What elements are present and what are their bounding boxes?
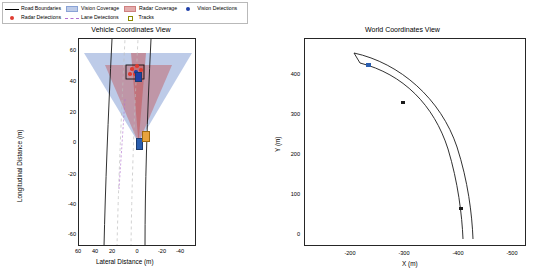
- legend-label: Tracks: [139, 13, 154, 22]
- legend-label: Road Boundaries: [21, 4, 61, 13]
- radar-detections-icon: [5, 14, 19, 22]
- vehicle-marker: [401, 101, 405, 104]
- radar-detection-point: [139, 68, 143, 72]
- vehicle-view-plot-area: [78, 38, 196, 246]
- road-boundaries-icon: [5, 5, 19, 13]
- world-road-graphics: [305, 39, 526, 246]
- legend-label: Vision Coverage: [81, 4, 119, 13]
- y-axis-label: Y (m): [274, 136, 281, 152]
- world-view-plot-area: [304, 38, 526, 246]
- legend-label: Vision Detections: [197, 4, 237, 13]
- y-tick: 0: [282, 231, 300, 237]
- legend-label: Lane Detections: [81, 13, 119, 22]
- y-tick: 100: [282, 191, 300, 197]
- legend-label: Radar Detections: [21, 13, 61, 22]
- y-tick: 300: [282, 111, 300, 117]
- y-axis-label: Longitudinal Distance (m): [16, 130, 23, 202]
- x-axis-label: X (m): [402, 260, 418, 267]
- y-tick: 0: [60, 139, 76, 145]
- y-tick: -60: [60, 231, 76, 237]
- world-coordinates-panel: World Coordinates View -200 -300 -400 -5…: [268, 14, 537, 280]
- x-tick: -20: [158, 248, 166, 254]
- vehicle-view-title: Vehicle Coordinates View: [0, 26, 262, 33]
- x-tick: 20: [109, 248, 115, 254]
- y-tick: 20: [60, 109, 76, 115]
- target-vehicle: [142, 131, 150, 142]
- x-tick: -300: [398, 250, 409, 256]
- y-tick: 400: [282, 71, 300, 77]
- radar-detection-point: [130, 67, 134, 71]
- legend-item-tracks: Tracks: [123, 13, 154, 22]
- vehicle-marker: [459, 207, 463, 210]
- x-axis-label: Lateral Distance (m): [96, 258, 154, 265]
- legend-item-lane-detections: Lane Detections: [65, 13, 119, 22]
- vision-coverage-icon: [65, 5, 79, 13]
- y-tick: 200: [282, 151, 300, 157]
- x-tick: -40: [176, 248, 184, 254]
- lane-detections-icon: [65, 14, 79, 22]
- x-tick: 40: [92, 248, 98, 254]
- legend-item-vision-detections: Vision Detections: [181, 4, 237, 13]
- y-tick: 60: [60, 47, 76, 53]
- x-tick: -200: [344, 250, 355, 256]
- legend-item-road-boundaries: Road Boundaries: [5, 4, 61, 13]
- radar-coverage-icon: [123, 5, 137, 13]
- y-tick: -20: [60, 171, 76, 177]
- x-tick: 60: [75, 248, 81, 254]
- x-tick: 0: [135, 248, 138, 254]
- road-boundary-inner: [360, 63, 463, 239]
- tracks-icon: [123, 14, 137, 22]
- y-tick: -40: [60, 201, 76, 207]
- legend-label: Radar Coverage: [139, 4, 177, 13]
- radar-detection-point: [128, 72, 132, 76]
- legend: Road Boundaries Vision Coverage Radar Co…: [2, 2, 248, 24]
- vision-detections-icon: [181, 5, 195, 13]
- ego-vehicle-marker: [366, 63, 371, 67]
- legend-item-vision-coverage: Vision Coverage: [65, 4, 119, 13]
- radar-detection-point: [135, 64, 139, 68]
- legend-item-radar-detections: Radar Detections: [5, 13, 61, 22]
- tracked-vehicle: [135, 72, 142, 82]
- y-tick: 40: [60, 78, 76, 84]
- legend-item-radar-coverage: Radar Coverage: [123, 4, 177, 13]
- road-boundary-outer: [354, 53, 473, 239]
- x-tick: -400: [452, 250, 463, 256]
- world-view-title: World Coordinates View: [268, 26, 537, 33]
- x-tick: -500: [506, 250, 517, 256]
- figure-root: Road Boundaries Vision Coverage Radar Co…: [0, 0, 537, 280]
- vehicle-coordinates-panel: Vehicle Coordinates View: [0, 24, 262, 280]
